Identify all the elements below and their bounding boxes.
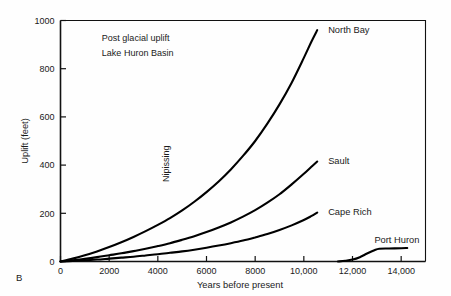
annotation-line-0: Post glacial uplift (102, 33, 170, 43)
inner-label-nipissing: Nipissing (161, 145, 171, 182)
series-label-cape-rich: Cape Rich (328, 207, 371, 217)
x-axis-title: Years before present (197, 280, 283, 290)
figure-panel-b: 0200040006000800010,00012,00014,000 0200… (0, 0, 451, 296)
y-tick-label: 800 (39, 64, 54, 74)
y-tick-label: 600 (39, 112, 54, 122)
x-tick-label: 2000 (99, 266, 119, 276)
x-tick-label: 4000 (148, 266, 168, 276)
x-tick-label: 0 (58, 266, 63, 276)
y-tick-label: 200 (39, 209, 54, 219)
y-tick-label: 1000 (34, 16, 54, 26)
series-label-sault: Sault (328, 156, 350, 166)
series-label-port-huron: Port Huron (374, 235, 419, 245)
chart-background (0, 0, 451, 296)
x-tick-label: 8000 (245, 266, 265, 276)
y-axis-title: Uplift (feet) (20, 118, 30, 163)
y-tick-label: 0 (49, 257, 54, 267)
annotation-line-1: Lake Huron Basin (102, 48, 174, 58)
x-tick-label: 10,000 (290, 266, 318, 276)
x-tick-label: 14,000 (387, 266, 415, 276)
y-tick-label: 400 (39, 160, 54, 170)
series-label-north-bay: North Bay (328, 25, 370, 35)
x-tick-label: 6000 (196, 266, 216, 276)
uplift-line-chart: 0200040006000800010,00012,00014,000 0200… (0, 0, 451, 296)
panel-letter: B (16, 272, 22, 283)
x-tick-label: 12,000 (339, 266, 367, 276)
